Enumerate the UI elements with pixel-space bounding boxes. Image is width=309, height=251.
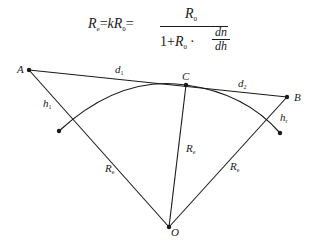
point-b xyxy=(285,95,289,99)
line-bo xyxy=(169,97,287,227)
geometry-diagram: A B C O d1 d2 h1 hr Re Re Re xyxy=(0,0,309,251)
label-h1: h1 xyxy=(43,97,52,110)
line-ao xyxy=(29,70,169,227)
earth-arc xyxy=(59,83,280,133)
label-d2: d2 xyxy=(238,77,247,90)
point-a xyxy=(27,68,31,72)
point-c xyxy=(184,83,188,87)
arc-end-right xyxy=(278,131,282,135)
label-re-center: Re xyxy=(185,142,196,155)
label-a: A xyxy=(16,63,24,75)
label-c: C xyxy=(182,70,190,82)
label-b: B xyxy=(294,91,301,103)
arc-end-left xyxy=(57,129,61,133)
label-h2: hr xyxy=(280,111,288,124)
line-co xyxy=(169,85,186,227)
label-d1: d1 xyxy=(115,63,124,76)
label-o: O xyxy=(171,226,179,238)
label-re-right: Re xyxy=(229,160,240,173)
